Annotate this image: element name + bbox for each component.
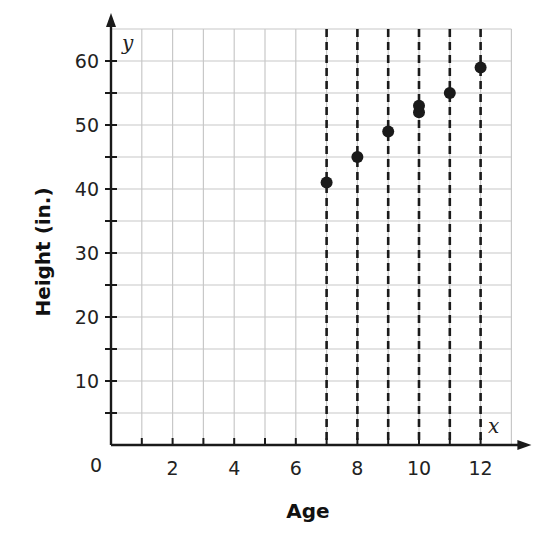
y-tick-label: 10 — [75, 370, 99, 392]
data-point — [351, 151, 363, 163]
x-axis-title: Age — [286, 499, 329, 523]
scatter-chart: 24681012102030405060 y x 0 Age Height (i… — [0, 0, 536, 558]
origin-label: 0 — [90, 454, 102, 476]
dashed-vertical-lines — [327, 29, 481, 445]
y-tick-label: 60 — [75, 50, 99, 72]
data-point — [321, 177, 333, 189]
y-tick-label: 40 — [75, 178, 99, 200]
y-tick-label: 20 — [75, 306, 99, 328]
axis-ticks: 24681012102030405060 — [75, 50, 493, 479]
y-tick-label: 30 — [75, 242, 99, 264]
data-point — [444, 87, 456, 99]
data-point — [382, 125, 394, 137]
x-tick-label: 8 — [351, 457, 363, 479]
data-point — [475, 61, 487, 73]
y-axis-arrow-icon — [106, 13, 116, 27]
y-axis-variable: y — [121, 31, 134, 55]
data-point — [413, 100, 425, 112]
y-tick-label: 50 — [75, 114, 99, 136]
x-tick-label: 2 — [167, 457, 179, 479]
x-tick-label: 6 — [290, 457, 302, 479]
x-axis-arrow-icon — [517, 440, 531, 450]
x-axis-variable: x — [488, 414, 499, 438]
axes — [106, 13, 531, 450]
x-tick-label: 12 — [469, 457, 493, 479]
x-tick-label: 10 — [407, 457, 431, 479]
y-axis-title: Height (in.) — [31, 187, 55, 316]
x-tick-label: 4 — [228, 457, 240, 479]
